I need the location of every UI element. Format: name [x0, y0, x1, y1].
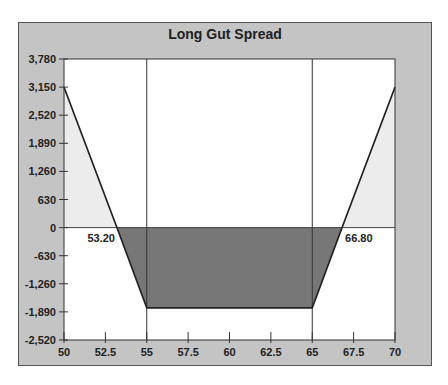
- y-tick-label: 1,260: [28, 165, 56, 177]
- y-tick-label: 630: [38, 194, 56, 206]
- y-tick-label: -1,890: [25, 306, 56, 318]
- y-tick-label: 1,890: [28, 137, 56, 149]
- y-tick-label: -630: [34, 250, 56, 262]
- y-tick-label: -1,260: [25, 278, 56, 290]
- loss-area: [117, 228, 342, 308]
- x-tick-label: 70: [389, 346, 401, 358]
- x-tick-label: 67.5: [343, 346, 364, 358]
- y-tick-label: -2,520: [25, 334, 56, 346]
- x-tick-label: 62.5: [260, 346, 281, 358]
- y-tick-label: 3,780: [28, 53, 56, 65]
- y-tick-label: 3,150: [28, 81, 56, 93]
- payoff-chart: 3,7803,1502,5201,8901,2606300-630-1,260-…: [0, 0, 448, 385]
- x-tick-label: 65: [306, 346, 318, 358]
- x-tick-label: 60: [223, 346, 235, 358]
- x-tick-label: 52.5: [95, 346, 116, 358]
- breakeven-label-high: 66.80: [345, 232, 373, 244]
- breakeven-label-low: 53.20: [87, 232, 115, 244]
- y-tick-label: 2,520: [28, 109, 56, 121]
- x-tick-label: 57.5: [177, 346, 198, 358]
- y-tick-label: 0: [50, 222, 56, 234]
- x-tick-label: 50: [58, 346, 70, 358]
- x-tick-label: 55: [141, 346, 153, 358]
